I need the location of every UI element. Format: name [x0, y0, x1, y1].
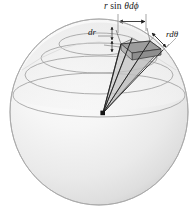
sphere-center-point [100, 111, 105, 116]
theta-label-leader [166, 38, 176, 48]
label-arc-phi: r sin θdϕ [104, 2, 139, 12]
label-arc-phi-sin: sin [110, 1, 121, 11]
label-arc-phi-r: r [104, 1, 108, 11]
label-arc-phi-theta-dphi: θdϕ [124, 1, 139, 11]
center-marker [100, 111, 105, 116]
label-arc-theta: rdθ [166, 30, 178, 39]
spherical-volume-element-figure: r sin θdϕ dr rdθ [0, 0, 196, 209]
label-radial-dr: dr [88, 28, 96, 37]
